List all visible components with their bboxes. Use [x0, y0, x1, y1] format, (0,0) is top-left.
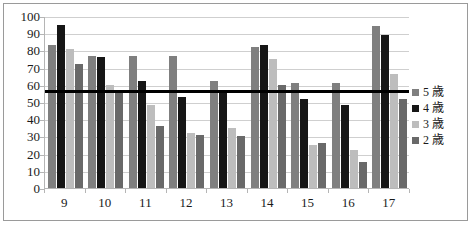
bar-group — [86, 17, 127, 188]
legend-item-label: 4 歳 — [423, 102, 444, 114]
bar[interactable] — [156, 126, 164, 188]
x-axis-tick-label: 16 — [328, 196, 368, 210]
legend-item-label: 5 歳 — [423, 86, 444, 98]
x-axis-tickmark — [368, 189, 369, 193]
x-axis-tickmark — [44, 189, 45, 193]
legend-swatch-icon — [412, 105, 419, 112]
x-axis-tick-label: 10 — [85, 196, 125, 210]
bar-group — [248, 17, 289, 188]
bar[interactable] — [350, 150, 358, 188]
legend-swatch-icon — [412, 137, 419, 144]
x-axis-tickmark — [166, 189, 167, 193]
bar[interactable] — [359, 162, 367, 188]
x-axis-tick-label: 15 — [288, 196, 328, 210]
y-axis-tick-label: 20 — [6, 148, 40, 161]
x-axis-tick-label: 14 — [247, 196, 287, 210]
legend-swatch-icon — [412, 121, 419, 128]
y-axis-tick-label: 40 — [6, 113, 40, 126]
bar[interactable] — [269, 59, 277, 188]
bar[interactable] — [88, 56, 96, 188]
x-axis-tickmark — [287, 189, 288, 193]
bar[interactable] — [75, 64, 83, 188]
threshold-line — [45, 90, 409, 93]
bar[interactable] — [66, 49, 74, 188]
legend-item[interactable]: 2 歳 — [412, 132, 468, 148]
x-axis-tickmark — [328, 189, 329, 193]
y-axis-tick-label: 100 — [6, 10, 40, 23]
y-axis-tick-label: 60 — [6, 79, 40, 92]
bar[interactable] — [318, 143, 326, 188]
bar[interactable] — [237, 136, 245, 188]
chart-frame: 1009080706050403020100 91011121314151617… — [3, 3, 468, 221]
bar[interactable] — [48, 45, 56, 188]
bar[interactable] — [228, 128, 236, 188]
legend-item[interactable]: 4 歳 — [412, 100, 468, 116]
bar[interactable] — [341, 105, 349, 188]
x-axis-tick-label: 9 — [44, 196, 84, 210]
y-axis-tick-label: 50 — [6, 96, 40, 109]
bar-group — [329, 17, 370, 188]
plot-area — [44, 17, 409, 189]
bar[interactable] — [291, 83, 299, 188]
bar[interactable] — [332, 83, 340, 188]
y-axis-tick-label: 0 — [6, 182, 40, 195]
bar-group — [288, 17, 329, 188]
bar-group — [45, 17, 86, 188]
x-axis-tickmark — [125, 189, 126, 193]
bar[interactable] — [106, 85, 114, 188]
bar[interactable] — [57, 25, 65, 188]
bar[interactable] — [138, 81, 146, 188]
bar-group — [126, 17, 167, 188]
bar[interactable] — [219, 90, 227, 188]
bar[interactable] — [372, 26, 380, 188]
x-axis-tick-label: 12 — [166, 196, 206, 210]
bar[interactable] — [196, 135, 204, 188]
x-axis: 91011121314151617 — [44, 189, 409, 213]
x-axis-tickmark — [409, 189, 410, 193]
bar-group — [167, 17, 208, 188]
bar[interactable] — [178, 97, 186, 188]
y-axis-tick-label: 80 — [6, 44, 40, 57]
bar[interactable] — [147, 105, 155, 188]
bar[interactable] — [260, 45, 268, 188]
legend-item-label: 3 歳 — [423, 118, 444, 130]
legend-swatch-icon — [412, 89, 419, 96]
bar[interactable] — [169, 56, 177, 188]
x-axis-tickmark — [247, 189, 248, 193]
bar[interactable] — [251, 47, 259, 188]
bar-group — [369, 17, 410, 188]
bar[interactable] — [300, 99, 308, 188]
bar[interactable] — [278, 85, 286, 188]
legend-item[interactable]: 3 歳 — [412, 116, 468, 132]
bar[interactable] — [399, 99, 407, 188]
x-axis-tick-label: 11 — [125, 196, 165, 210]
legend-item-label: 2 歳 — [423, 134, 444, 146]
y-axis-tick-label: 90 — [6, 27, 40, 40]
bar[interactable] — [381, 35, 389, 188]
legend-item[interactable]: 5 歳 — [412, 84, 468, 100]
bar[interactable] — [115, 92, 123, 188]
x-axis-tickmark — [206, 189, 207, 193]
y-axis-tick-label: 10 — [6, 165, 40, 178]
bar[interactable] — [129, 56, 137, 188]
bar[interactable] — [309, 145, 317, 188]
x-axis-tick-label: 17 — [369, 196, 409, 210]
y-axis-tick-label: 30 — [6, 130, 40, 143]
bar-group — [207, 17, 248, 188]
y-axis: 1009080706050403020100 — [4, 17, 40, 189]
bar[interactable] — [187, 133, 195, 188]
bar[interactable] — [210, 81, 218, 188]
bar[interactable] — [97, 57, 105, 188]
y-axis-tick-label: 70 — [6, 62, 40, 75]
x-axis-tick-label: 13 — [207, 196, 247, 210]
x-axis-tickmark — [85, 189, 86, 193]
chart-legend: 5 歳4 歳3 歳2 歳 — [412, 84, 468, 148]
